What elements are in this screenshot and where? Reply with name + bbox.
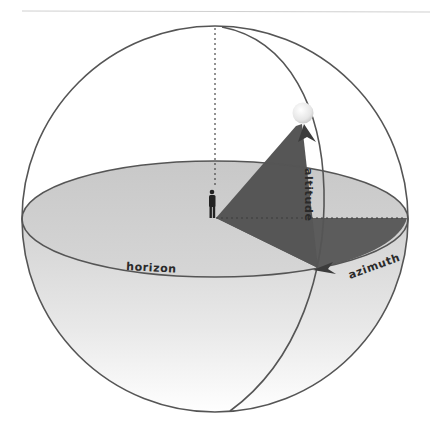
altitude-label: altitude [302,168,315,221]
top-divider [22,11,430,12]
horizon-label: horizon [126,260,177,276]
sun-icon [293,103,314,124]
celestial-sphere-diagram: altitude azimuth horizon [0,0,430,426]
